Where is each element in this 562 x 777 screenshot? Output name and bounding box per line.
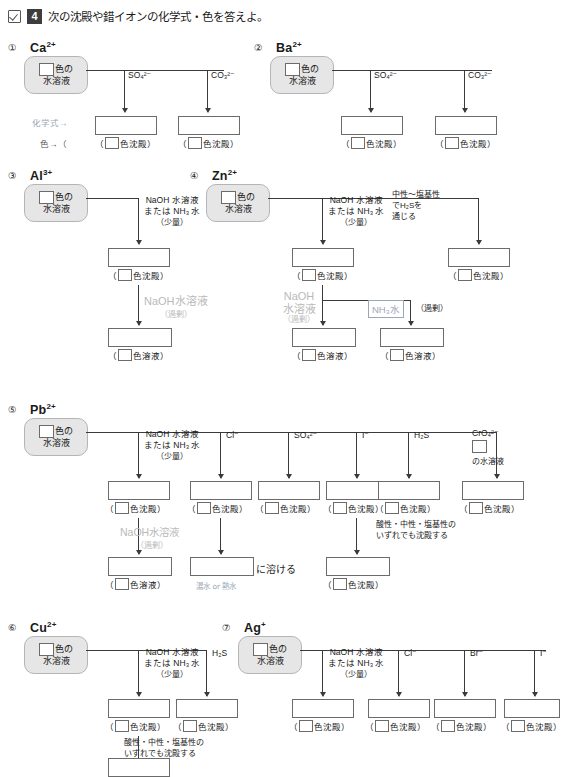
- answer-box[interactable]: [258, 481, 320, 500]
- color-input-box[interactable]: [299, 720, 313, 732]
- color-input-box[interactable]: [302, 349, 316, 361]
- precipitate-label: （色沈殿）: [105, 502, 166, 514]
- answer-box[interactable]: [326, 557, 390, 576]
- answer-box[interactable]: [108, 328, 172, 347]
- answer-box[interactable]: [435, 116, 497, 135]
- item-1-number: ①: [8, 42, 17, 53]
- color-hint-note: 色→（: [40, 137, 67, 149]
- precipitate-label: （色沈殿）: [431, 720, 492, 732]
- color-input-box[interactable]: [39, 425, 54, 438]
- arrow-down-icon: [220, 518, 221, 554]
- color-input-box[interactable]: [285, 63, 300, 76]
- answer-box[interactable]: [462, 481, 524, 500]
- arrow-down-icon: [410, 300, 411, 325]
- item-5-reagent: NaOH 水溶液 または NH₃ 水 （少量）: [144, 429, 200, 463]
- answer-box[interactable]: [95, 116, 157, 135]
- color-input-box[interactable]: [458, 269, 472, 281]
- nh3-water-box: NH₃水: [368, 300, 404, 318]
- excess-label: （過剰）: [416, 302, 448, 313]
- answer-box[interactable]: [368, 699, 430, 718]
- arrow-down-icon: [534, 650, 535, 696]
- precipitate-label: （色沈殿）: [459, 502, 520, 514]
- item-4-number: ④: [190, 170, 199, 181]
- answer-box[interactable]: [108, 699, 170, 718]
- item-7-branch-br: Br⁻: [470, 648, 483, 658]
- answer-box[interactable]: [341, 116, 403, 135]
- arrow-down-icon: [356, 432, 357, 478]
- color-input-box[interactable]: [115, 720, 129, 732]
- item-1-branch-label-1: SO₄²⁻: [128, 70, 151, 80]
- item-4-reagent: NaOH 水溶液 または NH₃ 水 （少量）: [328, 195, 384, 229]
- precipitate-label: （色沈殿）: [375, 502, 436, 514]
- item-4-naoh-gray-note: NaOH 水溶液 （過剰）: [276, 290, 322, 324]
- color-input-box[interactable]: [472, 440, 487, 453]
- color-input-box[interactable]: [441, 720, 455, 732]
- color-input-box[interactable]: [188, 137, 202, 149]
- precipitate-label: （色沈殿）: [95, 137, 156, 149]
- answer-box[interactable]: [190, 481, 252, 500]
- answer-box[interactable]: [378, 481, 440, 500]
- color-input-box[interactable]: [265, 502, 279, 514]
- item-6-number: ⑥: [8, 622, 17, 633]
- item-3-reagent: NaOH 水溶液 または NH₃ 水 （少量）: [144, 195, 200, 229]
- pencil-note: 湯水 or 熱水: [196, 580, 236, 591]
- answer-box[interactable]: [434, 699, 496, 718]
- answer-box[interactable]: [380, 328, 444, 347]
- precipitate-label: （色沈殿）: [341, 137, 402, 149]
- color-input-box[interactable]: [105, 137, 119, 149]
- color-input-box[interactable]: [118, 349, 132, 361]
- arrow-down-icon: [322, 650, 323, 696]
- item-7-branch-cl: Cl⁻: [404, 648, 417, 658]
- answer-box[interactable]: [292, 248, 354, 267]
- color-input-box[interactable]: [385, 502, 399, 514]
- color-input-box[interactable]: [351, 137, 365, 149]
- item-2-branch-label-1: SO₄²⁻: [374, 70, 397, 80]
- answer-box[interactable]: [504, 699, 560, 718]
- naoh-excess-gray-note: NaOH水溶液（過剰）: [144, 292, 208, 319]
- cro4-color-box: [472, 440, 487, 453]
- precipitate-label: （色沈殿）: [323, 578, 384, 590]
- color-input-box[interactable]: [183, 720, 197, 732]
- color-input-box[interactable]: [115, 502, 129, 514]
- arrow-down-icon: [138, 650, 139, 696]
- color-input-box[interactable]: [390, 349, 404, 361]
- color-input-box[interactable]: [445, 137, 459, 149]
- item-6-source-box: 色の 水溶液: [24, 636, 88, 674]
- arrow-down-icon: [398, 650, 399, 696]
- color-input-box[interactable]: [375, 720, 389, 732]
- item-1-ion: Ca2+: [30, 40, 56, 55]
- item-6-branch-h2s: H₂S: [212, 648, 227, 658]
- color-input-box[interactable]: [302, 269, 316, 281]
- color-input-box[interactable]: [118, 269, 132, 281]
- color-input-box[interactable]: [39, 191, 54, 204]
- connector: [86, 198, 138, 199]
- answer-box[interactable]: [292, 699, 354, 718]
- color-input-box[interactable]: [115, 578, 129, 590]
- answer-box[interactable]: [190, 557, 254, 576]
- solution-label: （色溶液）: [105, 578, 166, 590]
- item-5-branch-cro4: CrO₄²⁻: [472, 428, 498, 438]
- arrow-down-icon: [356, 518, 357, 554]
- answer-box[interactable]: [178, 116, 240, 135]
- item-2-source-box: 色の 水溶液: [270, 56, 334, 94]
- precipitate-label: （色沈殿）: [187, 502, 248, 514]
- item-6-reagent: NaOH 水溶液 または NH₃ 水 （少量）: [144, 647, 200, 681]
- answer-box[interactable]: [108, 248, 170, 267]
- answer-box[interactable]: [448, 248, 510, 267]
- color-input-box[interactable]: [511, 720, 525, 732]
- color-input-box[interactable]: [253, 643, 268, 656]
- answer-box[interactable]: [176, 699, 238, 718]
- color-input-box[interactable]: [39, 643, 54, 656]
- color-input-box[interactable]: [469, 502, 483, 514]
- color-input-box[interactable]: [197, 502, 211, 514]
- answer-box[interactable]: [292, 328, 356, 347]
- answer-box[interactable]: [108, 758, 170, 777]
- arrow-down-icon: [206, 650, 207, 696]
- color-input-box[interactable]: [221, 191, 236, 204]
- answer-box[interactable]: [108, 481, 170, 500]
- color-input-box[interactable]: [333, 502, 347, 514]
- color-input-box[interactable]: [39, 63, 54, 76]
- color-input-box[interactable]: [333, 578, 347, 590]
- answer-box[interactable]: [108, 557, 172, 576]
